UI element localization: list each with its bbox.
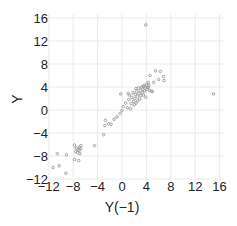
data-point: [129, 108, 132, 111]
data-point: [157, 78, 160, 81]
data-point: [134, 97, 137, 100]
data-point: [93, 144, 96, 147]
data-point: [154, 70, 157, 73]
data-point: [65, 172, 68, 175]
data-point: [126, 106, 129, 109]
data-point: [130, 96, 133, 99]
data-point: [79, 152, 82, 155]
x-tick-label: −8: [66, 179, 81, 194]
data-point: [52, 166, 55, 169]
y-tick-label: −4: [33, 126, 48, 141]
data-point: [127, 92, 130, 95]
data-point: [149, 74, 152, 77]
y-axis-label: Y: [9, 94, 25, 104]
data-point: [142, 94, 145, 97]
data-point: [135, 87, 138, 90]
x-axis-label: Y(−1): [105, 199, 140, 215]
x-tick-label: 8: [167, 179, 174, 194]
data-point: [142, 85, 145, 88]
data-point: [104, 124, 107, 127]
data-point: [80, 144, 83, 147]
data-point: [102, 133, 105, 136]
data-point: [136, 95, 139, 98]
data-point: [110, 123, 113, 126]
data-point: [73, 144, 76, 147]
data-point: [104, 119, 107, 122]
data-point: [130, 102, 133, 105]
y-tick-label: 8: [41, 57, 48, 72]
data-points: [52, 24, 215, 175]
x-tick-label: 4: [143, 179, 150, 194]
y-tick-label: 0: [41, 103, 48, 118]
data-point: [77, 159, 80, 162]
data-point: [138, 98, 141, 101]
data-point: [73, 158, 76, 161]
data-point: [58, 164, 61, 167]
y-tick-label: −8: [33, 149, 48, 164]
x-tick-label: 12: [188, 179, 202, 194]
data-point: [119, 93, 122, 96]
data-point: [119, 112, 122, 115]
data-point: [127, 98, 130, 101]
data-point: [163, 79, 166, 82]
data-point: [113, 118, 116, 121]
data-point: [162, 75, 165, 78]
x-tick-label: 16: [212, 179, 226, 194]
data-point: [152, 81, 155, 84]
data-point: [148, 84, 151, 87]
x-tick-label: 0: [118, 179, 125, 194]
y-tick-label: 16: [34, 11, 48, 26]
y-axis-ticks: −12−8−40481216: [26, 11, 48, 187]
data-point: [65, 154, 68, 157]
x-tick-label: −4: [90, 179, 105, 194]
data-point: [116, 116, 119, 119]
data-point: [144, 96, 147, 99]
x-axis-ticks: −12−8−40481216: [38, 179, 227, 194]
data-point: [159, 70, 162, 73]
y-tick-label: 4: [41, 80, 48, 95]
data-point: [122, 105, 125, 108]
data-point: [147, 81, 150, 84]
data-point: [56, 152, 59, 155]
data-point: [144, 24, 147, 27]
data-point: [212, 93, 215, 96]
grid-lines: [45, 14, 224, 183]
scatter-chart: −12−8−40481216 −12−8−40481216 Y(−1) Y: [0, 0, 237, 226]
y-tick-label: −12: [26, 172, 48, 187]
y-tick-label: 12: [34, 34, 48, 49]
data-point: [124, 102, 127, 105]
